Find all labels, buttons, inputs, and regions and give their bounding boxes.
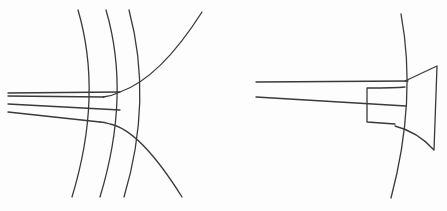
lower-branch-curve — [100, 122, 182, 197]
upper-branch-curve — [103, 12, 202, 97]
arc-3 — [124, 10, 140, 197]
channel-line-middle — [8, 104, 120, 110]
left-panel — [8, 10, 202, 197]
arc-1 — [72, 10, 89, 197]
diagram-figure: Two-panel line drawing: left panel shows… — [0, 0, 447, 211]
channel-upper-line — [256, 81, 408, 82]
arc-2 — [100, 10, 117, 197]
flared-outlet — [395, 66, 437, 150]
right-panel — [256, 14, 437, 198]
diagram-canvas — [0, 0, 447, 211]
channel-lower-line — [256, 97, 406, 106]
channel-line-double-a — [8, 92, 120, 93]
channel-line-lower — [8, 112, 100, 122]
